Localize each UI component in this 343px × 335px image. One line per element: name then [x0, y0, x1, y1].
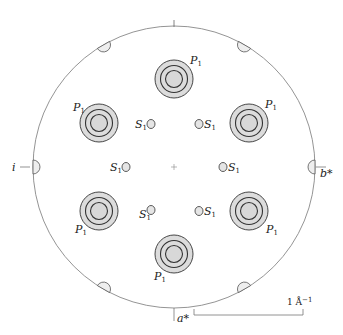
secondary-spot-label: S1 [135, 118, 147, 132]
primary-spot [155, 235, 193, 273]
primary-spot-label: P1 [264, 98, 277, 112]
spot-ring-inner [91, 115, 108, 132]
primary-spot [80, 104, 118, 142]
scale-bar [194, 309, 303, 315]
spot-ring-inner [241, 203, 258, 220]
secondary-spot [147, 120, 155, 129]
secondary-spot [195, 207, 203, 216]
axis-a-star-label: a* [177, 312, 190, 325]
secondary-spot [219, 163, 227, 172]
primary-spot [155, 60, 193, 98]
spot-ring-inner [166, 246, 183, 263]
edge-marker-icon [33, 160, 40, 174]
primary-spot [80, 192, 118, 230]
diffraction-diagram: ib*a*P1P1P1P1P1P1S1S1S1S1S1S11 Å−1 [0, 0, 343, 335]
primary-spot [230, 104, 268, 142]
primary-spot-label: P1 [189, 54, 202, 68]
scale-bar-label: 1 Å−1 [287, 296, 312, 307]
edge-marker-icon [237, 41, 250, 52]
secondary-spot-label: S1 [204, 118, 216, 132]
primary-spot-label: P1 [72, 101, 85, 115]
secondary-spot [122, 163, 130, 172]
edge-marker-icon [97, 41, 110, 52]
axis-b-star-label: b* [320, 167, 333, 180]
secondary-spot-label: S1 [204, 205, 216, 219]
secondary-spot-label: S1 [228, 161, 240, 175]
edge-marker-icon [308, 160, 315, 174]
secondary-spot-label: S1 [110, 161, 122, 175]
axis-i-label: i [12, 161, 16, 174]
primary-spot-label: P1 [74, 223, 87, 237]
secondary-spot [195, 120, 203, 129]
center-mark-icon [171, 164, 177, 170]
primary-spot-label: P1 [153, 270, 166, 284]
edge-marker-icon [237, 282, 250, 293]
spot-ring-inner [166, 71, 183, 88]
spot-ring-inner [241, 115, 258, 132]
primary-spot-label: P1 [265, 223, 278, 237]
spot-ring-inner [91, 203, 108, 220]
edge-marker-icon [97, 282, 110, 293]
primary-spot [230, 192, 268, 230]
